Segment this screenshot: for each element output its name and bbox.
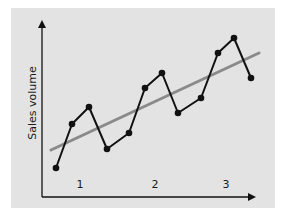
- data-point: [159, 70, 166, 77]
- data-point: [231, 35, 238, 42]
- data-point: [175, 110, 182, 117]
- data-point: [126, 130, 133, 137]
- data-point: [215, 50, 222, 57]
- y-axis-label: Sales volume: [26, 66, 39, 140]
- data-point: [198, 95, 205, 102]
- x-tick-label: 1: [77, 178, 84, 191]
- data-point: [69, 121, 76, 128]
- chart-svg: Sales volume 123: [0, 0, 285, 216]
- x-tick-labels: 123: [77, 178, 230, 191]
- data-point: [104, 146, 111, 153]
- data-point: [248, 75, 255, 82]
- x-tick-label: 2: [152, 178, 159, 191]
- data-point: [53, 165, 60, 172]
- data-point: [142, 85, 149, 92]
- trend-line: [51, 53, 259, 150]
- data-point: [86, 104, 93, 111]
- x-tick-label: 3: [223, 178, 230, 191]
